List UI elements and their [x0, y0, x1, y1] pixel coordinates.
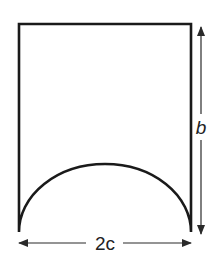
height-label: b — [196, 117, 207, 138]
arch-outline — [19, 24, 191, 232]
arch-diagram: b 2c — [0, 0, 216, 261]
width-label: 2c — [95, 233, 115, 254]
